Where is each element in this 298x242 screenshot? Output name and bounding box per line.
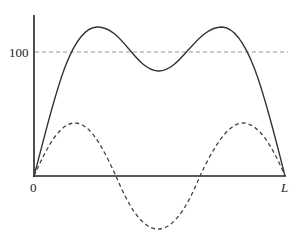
solid-curve xyxy=(34,27,285,176)
chart-canvas xyxy=(0,0,298,242)
y-tick-label-100: 100 xyxy=(9,46,29,59)
x-tick-label-origin: 0 xyxy=(30,181,37,194)
x-tick-label-L: L xyxy=(281,181,288,194)
